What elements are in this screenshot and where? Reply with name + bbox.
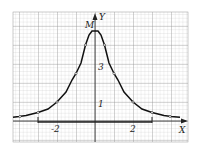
- chart: Y X M -2 2 1 3: [0, 0, 199, 150]
- y-tick-1: 1: [98, 99, 104, 109]
- y-tick-3: 3: [98, 62, 104, 72]
- x-tick-2: 2: [129, 124, 136, 134]
- x-axis-label: X: [178, 125, 186, 135]
- y-axis-label: Y: [99, 12, 106, 22]
- x-tick-neg2: -2: [51, 124, 60, 134]
- point-label-m: M: [84, 20, 95, 30]
